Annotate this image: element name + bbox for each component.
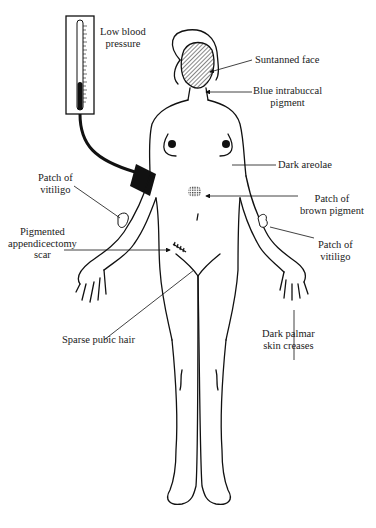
label-blue-intrabuccal-pigment: Blue intrabuccal pigment: [253, 85, 322, 108]
label-dark-palmar-creases: Dark palmar skin creases: [262, 328, 315, 351]
face: [181, 43, 214, 89]
label-low-blood-pressure: Low blood pressure: [100, 26, 146, 49]
brown-pigment-patch: [188, 186, 201, 197]
label-appendicectomy-scar: Pigmented appendicectomy scar: [8, 226, 77, 261]
vitiligo-left-patch: [118, 213, 128, 227]
label-suntanned-face: Suntanned face: [255, 54, 319, 66]
label-brown-pigment: Patch of brown pigment: [300, 193, 364, 216]
body-illustration: [0, 0, 376, 528]
vitiligo-right-patch: [258, 214, 267, 227]
areola-left: [168, 140, 176, 148]
label-vitiligo-right: Patch of vitiligo: [318, 239, 353, 262]
areola-right: [222, 140, 230, 148]
appendicectomy-scar: [173, 242, 186, 252]
label-vitiligo-left: Patch of vitiligo: [38, 172, 73, 195]
label-dark-areolae: Dark areolae: [278, 159, 332, 171]
label-sparse-pubic-hair: Sparse pubic hair: [62, 334, 135, 346]
diagram-canvas: Low blood pressure Suntanned face Blue i…: [0, 0, 376, 528]
